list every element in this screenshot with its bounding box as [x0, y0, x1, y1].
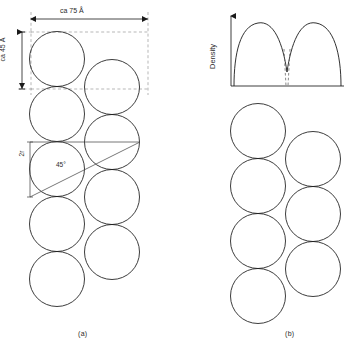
panel-a-construction-lines — [18, 12, 148, 95]
panel-a-circles — [30, 32, 140, 307]
dimension-width-label: ca 75 Å — [60, 7, 84, 14]
dimension-height-label: ca 45 Å — [0, 38, 6, 62]
figure-canvas: ca 75 Å ca 45 Å 2r 45° Density (a) (b) — [0, 0, 348, 350]
circle-a-left-3 — [30, 142, 85, 197]
density-curve — [234, 23, 341, 86]
circle-b-right-2 — [286, 187, 341, 242]
circle-b-right-1 — [286, 132, 341, 187]
dimension-height-a — [19, 32, 25, 89]
circle-a-left-2 — [30, 87, 85, 142]
circle-b-left-4 — [231, 269, 286, 324]
circle-b-left-3 — [231, 214, 286, 269]
radius-label: 2r — [18, 151, 25, 157]
circle-a-right-4 — [85, 225, 140, 280]
panel-a-measure-lines — [27, 142, 140, 197]
circle-b-right-3 — [286, 242, 341, 297]
circle-b-left-2 — [231, 159, 286, 214]
density-plot-axes — [231, 16, 344, 86]
angle-label: 45° — [56, 161, 66, 168]
figure-svg — [0, 0, 348, 350]
panel-caption-a: (a) — [78, 330, 87, 337]
density-axis-label: Density — [208, 44, 217, 69]
circle-a-right-3 — [85, 170, 140, 225]
circle-a-left-1 — [30, 32, 85, 87]
circle-a-left-5 — [30, 252, 85, 307]
panel-caption-b: (b) — [285, 330, 294, 337]
circle-b-left-1 — [231, 104, 286, 159]
circle-a-right-1 — [85, 60, 140, 115]
circle-a-left-4 — [30, 197, 85, 252]
panel-b-circles — [231, 104, 341, 324]
density-valley-dashes — [284, 49, 290, 86]
